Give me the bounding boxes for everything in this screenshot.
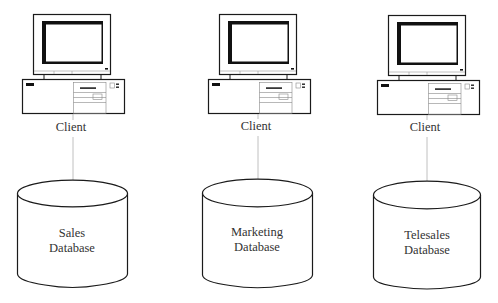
database-type: Database	[27, 241, 117, 256]
client-computer-telesales	[378, 16, 480, 115]
database-name: Sales	[27, 226, 117, 241]
client-label-sales: Client	[41, 120, 101, 135]
client-computer-sales	[23, 15, 125, 114]
desktop-computer-icon	[209, 15, 311, 114]
client-label-marketing: Client	[226, 119, 286, 134]
client-computer-marketing	[209, 15, 311, 114]
client-label-telesales: Client	[395, 120, 455, 135]
database-type: Database	[382, 243, 472, 258]
database-label-marketing: Marketing Database	[212, 225, 302, 255]
database-label-telesales: Telesales Database	[382, 228, 472, 258]
database-name: Marketing	[212, 225, 302, 240]
desktop-computer-icon	[378, 16, 480, 115]
desktop-computer-icon	[23, 15, 125, 114]
database-name: Telesales	[382, 228, 472, 243]
database-label-sales: Sales Database	[27, 226, 117, 256]
database-type: Database	[212, 240, 302, 255]
